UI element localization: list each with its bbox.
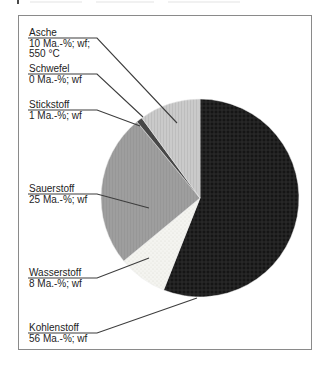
slice-name: Schwefel: [29, 63, 119, 74]
callout-wasserstoff: Wasserstoff 8 Ma.-%; wf: [29, 267, 119, 289]
slice-name: Kohlenstoff: [29, 322, 119, 333]
callout-asche: Asche 10 Ma.-%; wf; 550 °C: [29, 27, 119, 59]
slice-name: Asche: [29, 27, 119, 38]
slice-value: 1 Ma.-%; wf: [29, 111, 119, 121]
callout-stickstoff: Stickstoff 1 Ma.-%; wf: [29, 99, 119, 121]
callout-kohlenstoff: Kohlenstoff 56 Ma.-%; wf: [29, 322, 119, 344]
slice-value: 25 Ma.-%; wf: [29, 195, 119, 205]
callout-sauerstoff: Sauerstoff 25 Ma.-%; wf: [29, 183, 119, 205]
slice-name: Sauerstoff: [29, 183, 119, 194]
figure-canvas: Asche 10 Ma.-%; wf; 550 °C Schwefel 0 Ma…: [0, 0, 328, 368]
slice-value: 550 °C: [29, 49, 119, 59]
slice-name: Wasserstoff: [29, 267, 119, 278]
callout-schwefel: Schwefel 0 Ma.-%; wf: [29, 63, 119, 85]
slice-name: Stickstoff: [29, 99, 119, 110]
slice-value: 8 Ma.-%; wf: [29, 279, 119, 289]
slice-value: 56 Ma.-%; wf: [29, 334, 119, 344]
slice-value: 0 Ma.-%; wf: [29, 75, 119, 85]
pie-slices: [101, 99, 299, 297]
